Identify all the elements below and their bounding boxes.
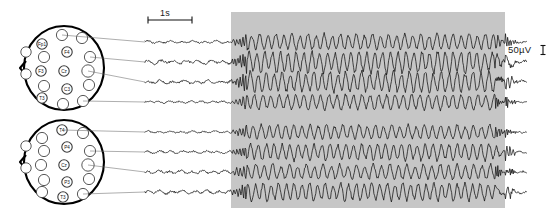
electrode-label-P3: P3 bbox=[64, 180, 70, 185]
figure-canvas: Fp1F4F3CzC3T3T4P4CzP3T3 bbox=[0, 0, 557, 223]
electrode-label-T3: T3 bbox=[39, 96, 45, 101]
electrode-label-T3: T3 bbox=[60, 195, 66, 200]
figure-svg: Fp1F4F3CzC3T3T4P4CzP3T3 bbox=[0, 0, 557, 223]
electrode-unlabeled[interactable] bbox=[38, 145, 49, 156]
electrode-trace-connector bbox=[90, 57, 145, 62]
electrode-trace-connector bbox=[88, 165, 145, 172]
electrode-trace-connector bbox=[90, 151, 145, 152]
electrode-unlabeled[interactable] bbox=[21, 141, 31, 151]
electrode-unlabeled[interactable] bbox=[38, 80, 49, 91]
electrode-unlabeled[interactable] bbox=[57, 98, 68, 109]
head-maps-layer: Fp1F4F3CzC3T3T4P4CzP3T3 bbox=[20, 26, 104, 204]
electrode-unlabeled[interactable] bbox=[83, 173, 94, 184]
head-map-upper: Fp1F4F3CzC3T3 bbox=[20, 26, 104, 110]
electrode-label-C3: C3 bbox=[64, 87, 70, 92]
head-map-lower: T4P4CzP3T3 bbox=[20, 120, 104, 204]
electrode-label-Cz: Cz bbox=[61, 69, 67, 74]
electrode-trace-connector bbox=[88, 71, 145, 82]
electrode-unlabeled[interactable] bbox=[76, 32, 87, 43]
electrode-label-P4: P4 bbox=[64, 145, 70, 150]
time-scale-bar bbox=[148, 17, 192, 24]
eeg-figure: Fp1F4F3CzC3T3T4P4CzP3T3 1s 50µV bbox=[0, 0, 557, 223]
amplitude-scale-label: 50µV bbox=[508, 44, 531, 55]
electrode-unlabeled[interactable] bbox=[77, 127, 88, 138]
seizure-shaded-region bbox=[231, 12, 505, 208]
electrode-unlabeled[interactable] bbox=[36, 186, 47, 197]
electrode-unlabeled[interactable] bbox=[36, 132, 47, 143]
amplitude-scale-bar bbox=[541, 46, 546, 55]
electrode-unlabeled[interactable] bbox=[38, 51, 49, 62]
electrode-unlabeled[interactable] bbox=[21, 69, 31, 79]
electrode-label-Cz: Cz bbox=[61, 163, 67, 168]
electrode-label-F4: F4 bbox=[64, 50, 70, 55]
electrode-unlabeled[interactable] bbox=[83, 79, 94, 90]
electrode-unlabeled[interactable] bbox=[38, 174, 49, 185]
electrode-unlabeled[interactable] bbox=[21, 47, 31, 57]
time-scale-label: 1s bbox=[160, 8, 170, 18]
electrode-trace-connector bbox=[62, 130, 145, 132]
electrode-unlabeled[interactable] bbox=[35, 159, 46, 170]
electrode-label-F3: F3 bbox=[38, 69, 44, 74]
electrode-trace-connector bbox=[83, 101, 145, 102]
electrode-unlabeled[interactable] bbox=[21, 163, 31, 173]
electrode-label-Fp1: Fp1 bbox=[38, 42, 46, 47]
electrode-label-T4: T4 bbox=[59, 128, 65, 133]
electrode-trace-connector bbox=[62, 35, 145, 42]
